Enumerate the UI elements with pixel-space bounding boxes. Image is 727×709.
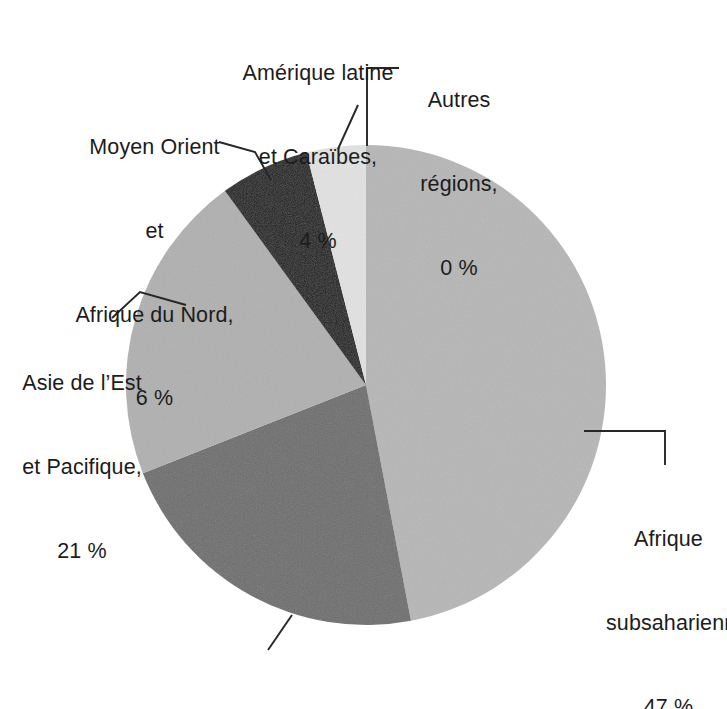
slice-label-asie-de-lest-et-pacifique: Asie de l’Est et Pacifique, 21 % <box>2 314 162 621</box>
slice-label-line: et Pacifique, <box>2 454 162 482</box>
slice-label-asie-du-sud: Asie du Sud, 22 % <box>152 654 307 709</box>
slice-label-line: subsaharienne, <box>606 610 727 638</box>
slice-label-line: et <box>62 218 247 246</box>
slice-label-line: Afrique <box>606 526 727 554</box>
slice-label-value: 21 % <box>2 538 162 566</box>
slice-label-line: Amérique latine <box>228 60 408 88</box>
slice-label-line: et Caraïbes, <box>228 144 408 172</box>
pie-chart: Amérique latine et Caraïbes, 4 % Autres … <box>0 0 727 709</box>
slice-label-value: 47 % <box>606 694 727 709</box>
slice-label-line: Asie de l’Est <box>2 370 162 398</box>
slice-label-autres-regions: Autres régions, 0 % <box>404 31 514 338</box>
slice-label-amerique-latine: Amérique latine et Caraïbes, 4 % <box>228 4 408 311</box>
slice-label-value: 0 % <box>404 255 514 283</box>
leader-line-asie-sud <box>268 615 292 650</box>
slice-label-line: Moyen Orient <box>62 134 247 162</box>
slice-label-line: régions, <box>404 171 514 199</box>
slice-label-line: Autres <box>404 87 514 115</box>
slice-label-afrique-subsaharienne: Afrique subsaharienne, 47 % <box>606 470 727 709</box>
slice-label-value: 4 % <box>228 228 408 256</box>
